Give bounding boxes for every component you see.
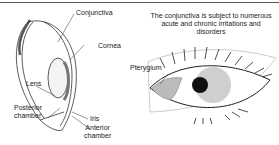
label-lens: Lens — [26, 80, 41, 88]
label-posterior-line1: Posterior — [14, 104, 42, 112]
label-posterior-line2: chamber — [14, 112, 42, 120]
label-cornea: Cornea — [98, 42, 121, 50]
label-conjunctiva: Conjunctiva — [76, 9, 113, 17]
front-view-eye — [148, 47, 276, 124]
caption-text: The conjunctiva is subject to numerous a… — [150, 12, 272, 36]
label-anterior-chamber: Anterior chamber — [84, 124, 111, 140]
label-posterior-chamber: Posterior chamber — [14, 104, 42, 120]
label-iris: Iris — [90, 115, 99, 123]
label-anterior-line1: Anterior — [84, 124, 111, 132]
label-anterior-line2: chamber — [84, 132, 111, 140]
label-pterygium: Pterygium — [130, 64, 162, 72]
